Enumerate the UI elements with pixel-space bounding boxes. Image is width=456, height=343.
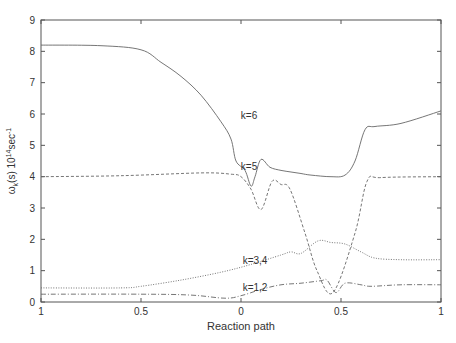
y-tick-label: 1	[29, 265, 35, 276]
x-tick-label: 0	[238, 306, 244, 317]
series-label: k=6	[241, 110, 258, 121]
y-tick-label: 0	[29, 297, 35, 308]
x-tick-label: 0.5	[134, 306, 148, 317]
reaction-path-frequency-chart: 0123456789 10.500.51 k=6k=5k=3,4k=1,2 Re…	[0, 0, 456, 343]
x-tick-label: 1	[438, 306, 444, 317]
y-axis-label: ωk(s) 1014sec-1	[5, 128, 19, 195]
series-line-k-3-4	[41, 240, 441, 288]
x-tick-label: 0.5	[334, 306, 348, 317]
x-axis-label: Reaction path	[207, 320, 275, 332]
series-label: k=1,2	[243, 282, 268, 293]
series-labels: k=6k=5k=3,4k=1,2	[241, 110, 268, 293]
y-tick-label: 2	[29, 234, 35, 245]
y-label-mid: (s) 10	[6, 157, 17, 183]
series-line-k-5	[41, 173, 441, 294]
y-label-omega: ω	[6, 186, 17, 194]
y-label-sup: 14	[5, 149, 12, 157]
x-tick-label: 1	[38, 306, 44, 317]
y-tick-label: 5	[29, 140, 35, 151]
y-tick-label: 7	[29, 77, 35, 88]
y-tick-label: 3	[29, 203, 35, 214]
y-tick-label: 9	[29, 15, 35, 26]
y-label-unit-sup: -1	[5, 128, 12, 134]
y-tick-label: 8	[29, 46, 35, 57]
y-axis-ticks: 0123456789	[29, 15, 441, 308]
series-line-k-1-2	[41, 279, 441, 298]
y-label-unit: sec	[6, 134, 17, 150]
series-label: k=5	[241, 161, 258, 172]
y-tick-label: 4	[29, 171, 35, 182]
y-tick-label: 6	[29, 109, 35, 120]
series-label: k=3,4	[243, 255, 268, 266]
